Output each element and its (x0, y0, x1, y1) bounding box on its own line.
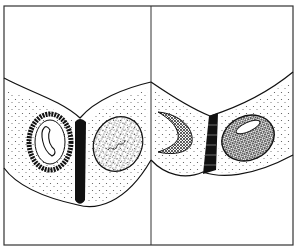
junction-dark (75, 119, 86, 204)
right-panel (151, 72, 293, 176)
left-panel (4, 78, 152, 207)
figure (0, 0, 300, 250)
